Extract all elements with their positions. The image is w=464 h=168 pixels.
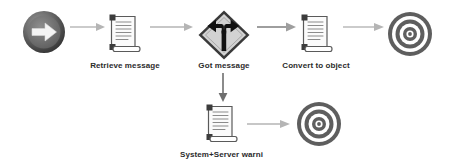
node-retrieve-message[interactable] bbox=[108, 13, 141, 55]
bullseye-target-icon bbox=[296, 101, 342, 147]
connector-warning-to-end bbox=[247, 117, 291, 131]
node-start[interactable] bbox=[22, 10, 66, 54]
fork-road-sign-icon bbox=[197, 9, 251, 61]
start-arrow-circle-icon bbox=[22, 10, 66, 54]
scroll-document-icon bbox=[300, 13, 333, 55]
connector-convert-to-end bbox=[343, 20, 385, 34]
connector-start-to-retrieve bbox=[70, 20, 106, 34]
flow-diagram-canvas: Retrieve message Got message bbox=[0, 0, 464, 168]
connector-decision-to-warning bbox=[216, 73, 230, 103]
connector-retrieve-to-decision bbox=[150, 20, 194, 34]
node-got-message-decision[interactable] bbox=[197, 9, 251, 61]
label-retrieve-message: Retrieve message bbox=[81, 61, 169, 71]
scroll-document-icon bbox=[108, 13, 141, 55]
label-convert-to-object: Convert to object bbox=[272, 61, 360, 71]
connector-decision-to-convert bbox=[257, 20, 297, 34]
label-got-message: Got message bbox=[188, 61, 260, 71]
node-end-top[interactable] bbox=[387, 11, 433, 57]
node-end-bottom[interactable] bbox=[296, 101, 342, 147]
node-convert-to-object[interactable] bbox=[300, 13, 333, 55]
label-system-server-warning: System+Server warni bbox=[165, 150, 278, 160]
node-system-server-warning[interactable] bbox=[205, 103, 238, 145]
scroll-document-icon bbox=[205, 103, 238, 145]
bullseye-target-icon bbox=[387, 11, 433, 57]
